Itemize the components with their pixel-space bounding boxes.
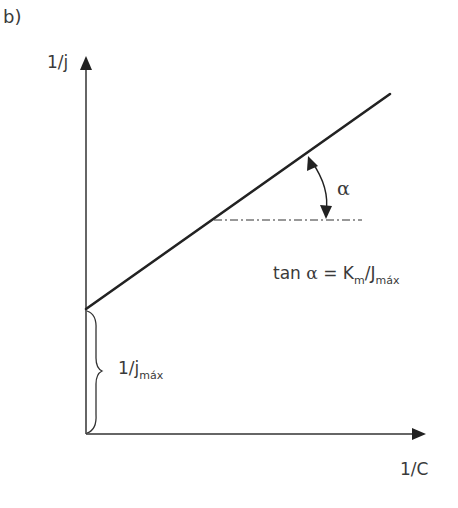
- x-axis-label: 1/C: [400, 461, 428, 478]
- formula-equals-k: = K: [318, 263, 354, 283]
- formula-jmax-subscript: máx: [375, 274, 399, 287]
- angle-arrow-bottom-icon: [320, 205, 332, 219]
- formula-prefix: tan: [273, 263, 306, 283]
- intercept-subscript: máx: [139, 369, 163, 382]
- angle-symbol: α: [337, 179, 350, 198]
- x-axis-arrow-icon: [412, 428, 426, 440]
- y-axis-arrow-icon: [80, 56, 92, 70]
- formula-slash-j: /J: [365, 263, 376, 283]
- intercept-brace: [87, 311, 102, 433]
- formula-alpha: α: [306, 263, 317, 283]
- slope-formula: tan α = Km/Jmáx: [273, 265, 399, 282]
- panel-label: b): [3, 8, 21, 26]
- lineweaver-burk-plot: [0, 0, 458, 508]
- y-axis-label: 1/j: [47, 54, 68, 71]
- intercept-label: 1/jmáx: [118, 360, 163, 377]
- formula-km-subscript: m: [354, 274, 365, 287]
- intercept-main: 1/j: [118, 358, 139, 378]
- angle-arc: [312, 162, 327, 212]
